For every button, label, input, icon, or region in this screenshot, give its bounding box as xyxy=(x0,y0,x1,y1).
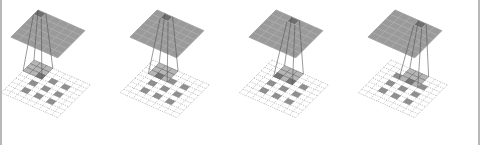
input-cell xyxy=(391,93,401,99)
input-cell xyxy=(180,84,190,90)
transposed-convolution-diagram xyxy=(2,0,478,145)
diagram-frame xyxy=(0,0,480,145)
input-cell xyxy=(385,80,395,86)
input-grid-line xyxy=(296,85,329,118)
input-cell xyxy=(272,93,282,99)
input-cell xyxy=(34,93,44,99)
input-cell xyxy=(48,78,58,84)
input-grid-line xyxy=(239,60,272,93)
input-cell xyxy=(140,87,150,93)
input-cell xyxy=(61,84,71,90)
input-cell xyxy=(165,98,175,104)
input-cell xyxy=(291,91,301,97)
panel-step-2 xyxy=(120,10,209,118)
input-cell xyxy=(284,98,294,104)
input-cell xyxy=(41,86,51,92)
input-cell xyxy=(279,86,289,92)
input-cell xyxy=(160,86,170,92)
input-cell xyxy=(21,87,31,93)
input-cell xyxy=(410,91,420,97)
input-cell xyxy=(46,98,56,104)
input-grid-line xyxy=(358,93,414,118)
input-cell xyxy=(172,91,182,97)
input-cell xyxy=(53,91,63,97)
input-grid-line xyxy=(58,85,91,118)
input-cell xyxy=(259,87,269,93)
input-grid-line xyxy=(120,93,176,118)
input-cell xyxy=(398,86,408,92)
input-cell xyxy=(403,98,413,104)
input-cell xyxy=(153,93,163,99)
input-cell xyxy=(299,84,309,90)
input-grid-line xyxy=(358,60,391,93)
input-grid-line xyxy=(2,93,58,118)
input-grid-line xyxy=(239,93,295,118)
input-cell xyxy=(147,80,157,86)
input-cell xyxy=(378,87,388,93)
panel-step-4 xyxy=(358,10,447,118)
input-grid-line xyxy=(177,85,210,118)
input-grid-line xyxy=(120,60,153,93)
input-grid-line xyxy=(415,85,448,118)
panel-step-1 xyxy=(2,10,90,118)
input-cell xyxy=(266,80,276,86)
input-cell xyxy=(28,80,38,86)
panel-step-3 xyxy=(239,10,328,118)
